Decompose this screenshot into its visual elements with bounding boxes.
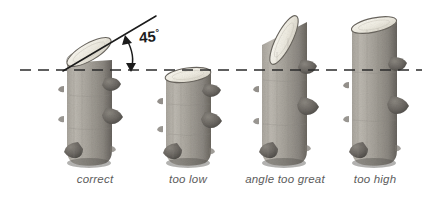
- stem-base-shadow: [166, 158, 210, 168]
- stem-base-shadow: [262, 158, 306, 168]
- illustration-canvas: 45° correct too low angle too great too …: [0, 0, 440, 197]
- stem-base-shadow: [67, 158, 111, 168]
- caption-angle-too-great: angle too great: [245, 173, 325, 185]
- angle-value: 45: [138, 28, 156, 46]
- caption-too-low: too low: [169, 173, 207, 185]
- angle-label: 45°: [138, 27, 159, 45]
- cutting-angle-illustration: [0, 0, 440, 197]
- caption-too-high: too high: [354, 173, 397, 185]
- degree-symbol: °: [155, 27, 159, 37]
- stem-base-shadow: [352, 158, 396, 168]
- caption-correct: correct: [77, 173, 114, 185]
